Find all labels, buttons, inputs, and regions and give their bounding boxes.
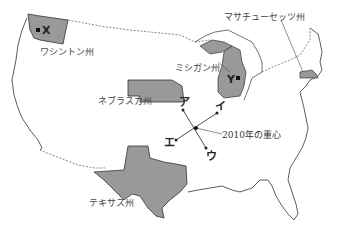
- marker-y: Y: [227, 74, 235, 85]
- direction-e: エ: [164, 137, 175, 148]
- label-massachusetts: マサチューセッツ州: [224, 13, 305, 22]
- direction-i: イ: [215, 101, 226, 112]
- us-map: X Y ワシントン州 ネブラスカ州 テキサス州 ミシガン州 マサチューセッツ州 …: [0, 0, 337, 226]
- label-texas: テキサス州: [89, 199, 134, 208]
- label-michigan: ミシガン州: [175, 64, 220, 73]
- center-label: 2010年の重心: [222, 131, 281, 140]
- marker-x: X: [42, 25, 50, 36]
- label-washington: ワシントン州: [40, 48, 94, 57]
- michigan-state: [218, 46, 246, 98]
- label-nebraska: ネブラスカ州: [98, 97, 152, 106]
- map-outline: [0, 0, 337, 226]
- direction-u: ウ: [206, 151, 217, 162]
- direction-a: ア: [179, 97, 190, 108]
